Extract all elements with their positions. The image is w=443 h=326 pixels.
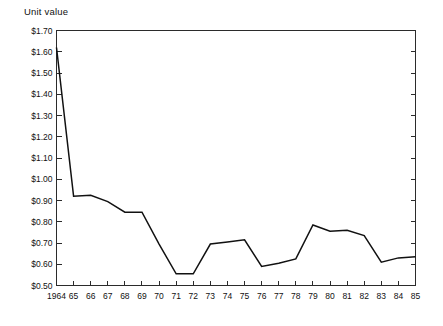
x-axis-tick-label: 72 — [189, 291, 199, 301]
y-axis-tick-label: $1.70 — [31, 26, 53, 36]
x-axis-tick-label: 67 — [103, 291, 113, 301]
x-axis-tick-label: 74 — [223, 291, 233, 301]
x-axis-tick-label: 69 — [137, 291, 147, 301]
x-axis-tick-label: 80 — [325, 291, 335, 301]
x-axis-tick-label: 70 — [154, 291, 164, 301]
y-axis-tick-label: $0.50 — [31, 281, 53, 291]
x-axis-tick-label: 1964 — [47, 291, 66, 301]
x-axis-tick-label: 82 — [359, 291, 369, 301]
y-axis-tick-label: $1.20 — [31, 132, 53, 142]
chart-container: Unit value $1.70$1.60$1.50$1.40$1.30$1.2… — [0, 0, 443, 326]
x-axis-tick-label: 75 — [240, 291, 250, 301]
right-axis-ticks — [411, 31, 416, 286]
x-axis-tick-label: 81 — [342, 291, 352, 301]
data-line-unit-value — [57, 48, 416, 274]
line-chart-plot: $1.70$1.60$1.50$1.40$1.30$1.20$1.10$1.00… — [0, 0, 443, 326]
x-axis-tick-label: 84 — [394, 291, 404, 301]
y-axis-tick-label: $1.30 — [31, 111, 53, 121]
x-axis-tick-label: 71 — [171, 291, 181, 301]
y-axis-tick-labels: $1.70$1.60$1.50$1.40$1.30$1.20$1.10$1.00… — [31, 26, 53, 291]
x-axis-tick-label: 79 — [308, 291, 318, 301]
x-axis-tick-label: 73 — [206, 291, 216, 301]
x-axis-tick-label: 76 — [257, 291, 267, 301]
x-axis-tick-label: 78 — [291, 291, 301, 301]
y-axis-tick-label: $0.90 — [31, 196, 53, 206]
data-series-unit-value — [57, 48, 416, 274]
x-axis-tick-labels: 1964656667686970717273747576777879808182… — [47, 291, 420, 301]
chart-axes — [57, 31, 416, 286]
x-axis-tick-label: 83 — [377, 291, 387, 301]
y-axis-tick-label: $0.70 — [31, 238, 53, 248]
y-axis-tick-label: $1.40 — [31, 89, 53, 99]
x-axis-tick-label: 66 — [86, 291, 96, 301]
x-axis-tick-label: 65 — [69, 291, 79, 301]
x-axis-tick-label: 85 — [411, 291, 421, 301]
y-axis-tick-label: $0.60 — [31, 259, 53, 269]
y-axis-tick-label: $1.50 — [31, 68, 53, 78]
x-axis-tick-label: 68 — [120, 291, 130, 301]
y-axis-tick-label: $1.10 — [31, 153, 53, 163]
x-axis-tick-label: 77 — [274, 291, 284, 301]
y-axis-tick-label: $1.60 — [31, 47, 53, 57]
y-axis-tick-label: $1.00 — [31, 174, 53, 184]
x-axis-ticks — [57, 281, 416, 286]
y-axis-tick-label: $0.80 — [31, 217, 53, 227]
